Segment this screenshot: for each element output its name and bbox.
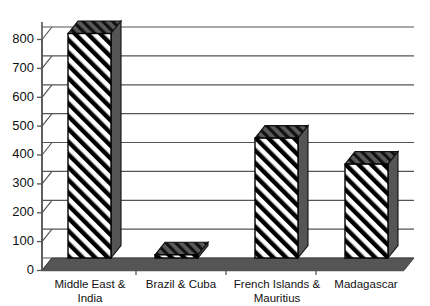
bar-chart: 0 100 200 300 400 500 600 700 800 [0, 0, 430, 306]
bar-front-face [68, 34, 111, 259]
value-tick-label-800: 800 [12, 31, 34, 46]
category-label-brazil-cuba-line1: Brazil & Cuba [146, 278, 217, 290]
bar-front-face [255, 138, 298, 258]
bar-middle-east-india[interactable] [68, 21, 121, 258]
connector-200 [42, 200, 52, 213]
bar-side-face [111, 21, 121, 258]
bar-side-face [298, 126, 308, 258]
category-label-middle-east-india-line1: Middle East & [55, 278, 126, 290]
bar-madagascar[interactable] [345, 152, 398, 258]
bar-brazil-cuba[interactable] [155, 242, 208, 258]
connector-600 [42, 85, 52, 98]
value-tick-label-300: 300 [12, 175, 34, 190]
value-tick-label-0: 0 [27, 262, 34, 277]
connector-300 [42, 171, 52, 184]
category-label-french-islands-mauritius-line2: Mauritius [254, 292, 301, 304]
bar-front-face [345, 164, 388, 258]
value-tick-label-500: 500 [12, 118, 34, 133]
category-axis-labels: Middle East & India Brazil & Cuba French… [55, 278, 398, 304]
connector-100 [42, 229, 52, 242]
value-tick-label-200: 200 [12, 204, 34, 219]
connector-500 [42, 114, 52, 127]
category-label-madagascar-line1: Madagascar [334, 278, 397, 290]
category-label-french-islands-mauritius-line1: French Islands & [234, 278, 321, 290]
connector-800 [42, 27, 52, 40]
bar-front-face [155, 255, 198, 258]
value-tick-label-400: 400 [12, 146, 34, 161]
bar-side-face [388, 152, 398, 258]
bar-french-islands-mauritius[interactable] [255, 126, 308, 258]
connector-700 [42, 56, 52, 69]
connector-400 [42, 143, 52, 156]
value-tick-label-600: 600 [12, 89, 34, 104]
category-label-middle-east-india-line2: India [78, 292, 104, 304]
depth-connectors [42, 27, 52, 271]
value-tick-label-700: 700 [12, 60, 34, 75]
chart-canvas: 0 100 200 300 400 500 600 700 800 [0, 0, 430, 306]
floor-surface [42, 258, 414, 271]
chart-floor [42, 258, 414, 271]
value-tick-label-100: 100 [12, 233, 34, 248]
value-axis-labels: 0 100 200 300 400 500 600 700 800 [12, 31, 34, 277]
